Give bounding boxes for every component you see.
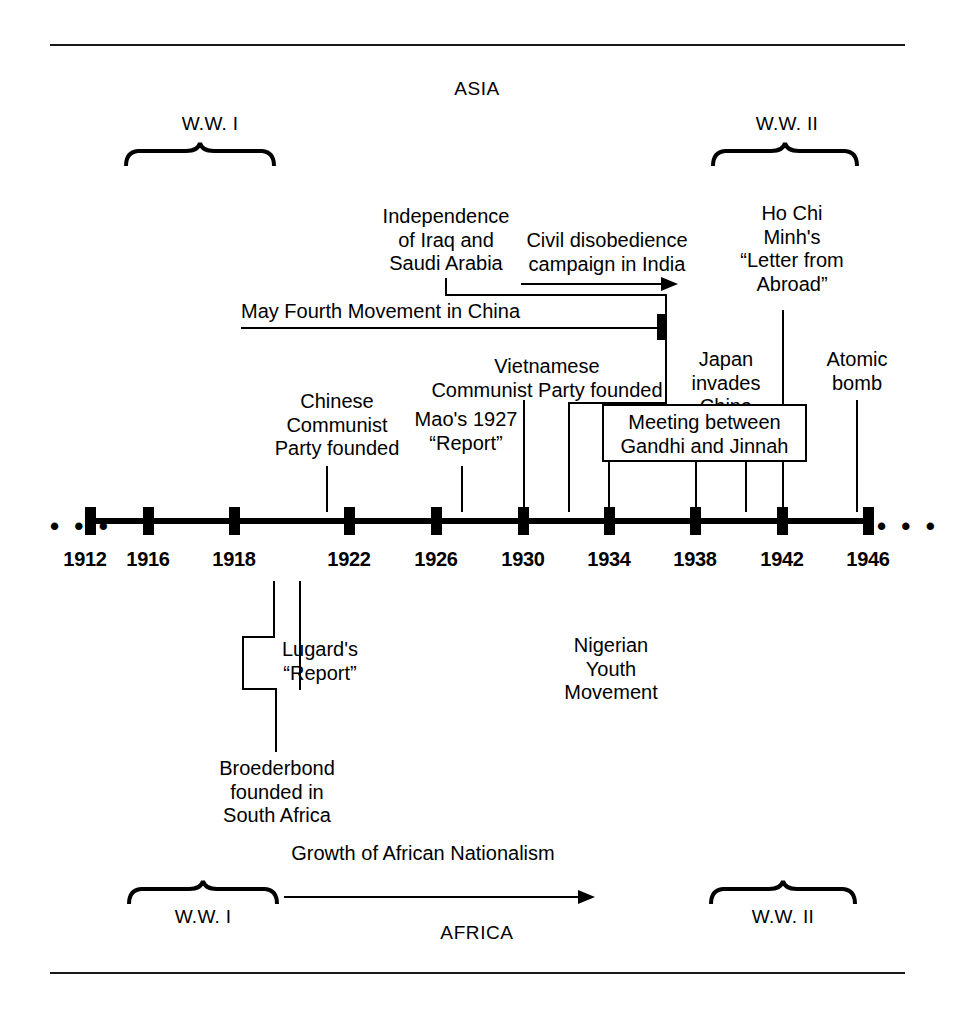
event-lugard-report: Lugard's “Report”: [247, 638, 393, 685]
year-label-1930: 1930: [488, 548, 558, 571]
event-gandhi-jinnah-label: Meeting between Gandhi and Jinnah: [604, 406, 805, 458]
independence-connector-drop: [568, 402, 570, 512]
lugard-connector-bracket: [242, 636, 244, 690]
ww2-top-label: W.W. II: [707, 113, 867, 135]
event-vietnamese-communist-party: Vietnamese Communist Party founded: [416, 355, 678, 402]
ww1-top-label: W.W. I: [125, 113, 295, 135]
ww2-bottom-brace: [709, 880, 857, 904]
event-atomic-bomb: Atomic bomb: [803, 348, 911, 395]
timeline-tick: [604, 507, 615, 535]
event-civil-disobedience: Civil disobedience campaign in India: [516, 229, 698, 276]
ww2-top-brace: [711, 142, 859, 166]
event-ho-chi-minh-letter: Ho Chi Minh's “Letter from Abroad”: [704, 202, 880, 296]
ww1-bottom-label: W.W. I: [118, 906, 288, 928]
year-label-1946: 1946: [833, 548, 903, 571]
atomic-bomb-connector: [856, 400, 858, 512]
broederbond-connector-upper: [299, 581, 301, 690]
event-may-fourth-movement: May Fourth Movement in China: [241, 300, 561, 324]
african-nationalism-arrow-line: [284, 896, 582, 898]
timeline-axis: [88, 518, 870, 524]
event-broederbond: Broederbond founded in South Africa: [201, 757, 353, 828]
region-label-africa: AFRICA: [387, 922, 567, 944]
year-label-1916: 1916: [113, 548, 183, 571]
event-african-nationalism: Growth of African Nationalism: [276, 842, 570, 866]
gandhi-jinnah-connector-left: [608, 460, 610, 512]
year-label-1926: 1926: [401, 548, 471, 571]
independence-connector-horizontal: [445, 294, 667, 296]
timeline-tick: [143, 507, 154, 535]
civil-disobedience-arrow-head: [661, 277, 678, 291]
timeline-tick: [85, 507, 96, 535]
may-fourth-end-marker: [657, 314, 665, 340]
broederbond-connector-lower: [275, 688, 277, 752]
ww1-bottom-brace: [127, 880, 279, 904]
chinese-cp-connector: [326, 466, 328, 512]
timeline-tick: [344, 507, 355, 535]
axis-trailing-ellipsis: • • •: [877, 513, 939, 539]
timeline-tick: [518, 507, 529, 535]
year-label-1922: 1922: [314, 548, 384, 571]
top-rule: [50, 44, 905, 46]
event-mao-report: Mao's 1927 “Report”: [402, 408, 530, 455]
japan-invades-connector: [695, 457, 697, 512]
lugard-connector-horizontal-lower: [242, 688, 275, 690]
ww1-top-brace: [124, 142, 276, 166]
may-fourth-line: [241, 327, 665, 329]
timeline-tick: [863, 507, 874, 535]
event-nigerian-youth-movement: Nigerian Youth Movement: [546, 634, 676, 705]
vietnamese-cp-connector: [523, 400, 525, 512]
timeline-tick: [777, 507, 788, 535]
mao-report-connector: [461, 466, 463, 512]
timeline-tick: [690, 507, 701, 535]
ww2-bottom-label: W.W. II: [703, 906, 863, 928]
axis-leading-ellipsis: • • •: [50, 513, 112, 539]
timeline-figure: ASIA W.W. I W.W. II Independence of Iraq…: [0, 0, 953, 1019]
timeline-tick: [431, 507, 442, 535]
gandhi-jinnah-connector-right: [745, 460, 747, 512]
year-label-1918: 1918: [199, 548, 269, 571]
african-nationalism-arrow-head: [578, 890, 595, 904]
civil-disobedience-arrow-line: [521, 283, 667, 285]
bottom-rule: [50, 972, 905, 974]
region-label-asia: ASIA: [387, 78, 567, 100]
year-label-1942: 1942: [747, 548, 817, 571]
event-chinese-communist-party: Chinese Communist Party founded: [254, 390, 420, 461]
year-label-1912: 1912: [50, 548, 120, 571]
event-independence-iraq-saudi: Independence of Iraq and Saudi Arabia: [371, 205, 521, 276]
year-label-1938: 1938: [660, 548, 730, 571]
timeline-tick: [229, 507, 240, 535]
lugard-connector-vertical: [273, 581, 275, 638]
year-label-1934: 1934: [574, 548, 644, 571]
event-gandhi-jinnah-box: Meeting between Gandhi and Jinnah: [602, 404, 807, 462]
